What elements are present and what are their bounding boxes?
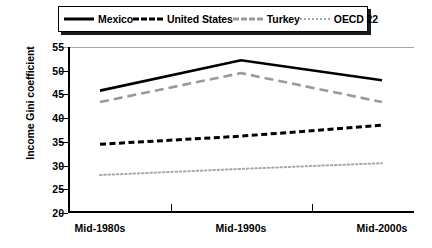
legend-label-mexico: Mexico: [98, 14, 133, 25]
series-line-united-states: [100, 125, 382, 144]
legend-line-long-dash-icon: [233, 14, 263, 24]
legend-item-turkey[interactable]: Turkey: [233, 14, 300, 25]
legend-label-turkey: Turkey: [267, 14, 300, 25]
legend-line-dotted-icon: [300, 14, 330, 24]
x-tick-label-0: Mid-1980s: [75, 222, 126, 234]
y-tick-label-30: 30: [52, 160, 64, 172]
legend-label-united-states: United States: [167, 14, 233, 25]
legend-label-oecd-22: OECD 22: [334, 14, 378, 25]
legend-item-mexico[interactable]: Mexico: [64, 14, 133, 25]
series-line-turkey: [100, 73, 382, 102]
legend-line-dashed-icon: [133, 14, 163, 24]
y-axis-title: Income Gini coefficient: [24, 18, 36, 188]
y-tick-label-35: 35: [52, 136, 64, 148]
y-tick-label-20: 20: [52, 207, 64, 219]
x-tick-label-1: Mid-1990s: [216, 222, 267, 234]
x-tick-label-2: Mid-2000s: [357, 222, 408, 234]
plot-area: 2025303540455055 Mid-1980sMid-1990sMid-2…: [68, 47, 414, 213]
legend-item-united-states[interactable]: United States: [133, 14, 233, 25]
chart-figure: Mexico United States Turkey OECD 22 Inco…: [0, 0, 432, 248]
legend-line-solid-icon: [64, 14, 94, 24]
series-line-mexico: [100, 60, 382, 90]
series-lines: [68, 47, 414, 213]
legend-box: Mexico United States Turkey OECD 22: [58, 6, 368, 32]
series-line-oecd-22: [100, 163, 382, 175]
chart-legend: Mexico United States Turkey OECD 22: [58, 6, 368, 32]
y-tick-label-45: 45: [52, 88, 64, 100]
y-tick-label-40: 40: [52, 112, 64, 124]
y-tick-label-25: 25: [52, 183, 64, 195]
legend-item-oecd-22[interactable]: OECD 22: [300, 14, 378, 25]
y-tick-label-50: 50: [52, 65, 64, 77]
y-tick-label-55: 55: [52, 41, 64, 53]
